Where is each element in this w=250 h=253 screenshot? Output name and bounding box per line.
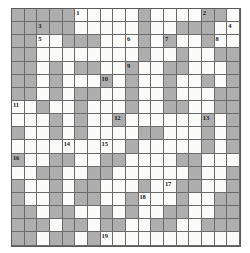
- crossword-cell-open[interactable]: [202, 154, 215, 167]
- crossword-cell-open[interactable]: [101, 48, 114, 61]
- crossword-cell-open[interactable]: [12, 114, 25, 127]
- crossword-cell-open[interactable]: [126, 167, 139, 180]
- crossword-cell-open[interactable]: [113, 127, 126, 140]
- crossword-cell-open[interactable]: [189, 101, 202, 114]
- crossword-cell-open[interactable]: [113, 101, 126, 114]
- crossword-cell-open[interactable]: [88, 219, 101, 232]
- crossword-cell-open[interactable]: [63, 62, 76, 75]
- crossword-cell-open[interactable]: [151, 22, 164, 35]
- crossword-cell-open[interactable]: [164, 22, 177, 35]
- crossword-cell-open[interactable]: [189, 48, 202, 61]
- crossword-cell-open[interactable]: [101, 35, 114, 48]
- crossword-cell-open[interactable]: 11: [12, 101, 25, 114]
- crossword-cell-open[interactable]: [37, 62, 50, 75]
- crossword-cell-open[interactable]: [37, 114, 50, 127]
- crossword-cell-open[interactable]: [151, 9, 164, 22]
- crossword-cell-open[interactable]: [88, 140, 101, 153]
- crossword-cell-open[interactable]: 19: [101, 232, 114, 245]
- crossword-cell-open[interactable]: [202, 167, 215, 180]
- crossword-cell-open[interactable]: [63, 127, 76, 140]
- crossword-cell-open[interactable]: [113, 232, 126, 245]
- crossword-cell-open[interactable]: [63, 101, 76, 114]
- crossword-cell-open[interactable]: [164, 232, 177, 245]
- crossword-cell-open[interactable]: [113, 193, 126, 206]
- crossword-cell-open[interactable]: [215, 167, 228, 180]
- crossword-cell-open[interactable]: [63, 167, 76, 180]
- crossword-cell-open[interactable]: 14: [63, 140, 76, 153]
- crossword-cell-open[interactable]: [126, 232, 139, 245]
- crossword-cell-open[interactable]: [37, 193, 50, 206]
- crossword-cell-open[interactable]: [139, 154, 152, 167]
- crossword-cell-open[interactable]: [139, 62, 152, 75]
- crossword-cell-open[interactable]: [25, 127, 38, 140]
- crossword-cell-open[interactable]: [139, 88, 152, 101]
- crossword-cell-open[interactable]: [113, 9, 126, 22]
- crossword-cell-open[interactable]: [25, 154, 38, 167]
- crossword-cell-open[interactable]: [37, 75, 50, 88]
- crossword-cell-open[interactable]: [189, 127, 202, 140]
- crossword-cell-open[interactable]: [164, 48, 177, 61]
- crossword-cell-open[interactable]: [113, 75, 126, 88]
- crossword-cell-open[interactable]: [202, 232, 215, 245]
- crossword-cell-open[interactable]: [101, 9, 114, 22]
- crossword-cell-open[interactable]: [164, 193, 177, 206]
- crossword-cell-open[interactable]: [189, 75, 202, 88]
- crossword-cell-open[interactable]: 5: [37, 35, 50, 48]
- crossword-cell-open[interactable]: [151, 140, 164, 153]
- crossword-cell-open[interactable]: [113, 206, 126, 219]
- crossword-cell-open[interactable]: [126, 22, 139, 35]
- crossword-cell-open[interactable]: [126, 9, 139, 22]
- crossword-cell-open[interactable]: [126, 180, 139, 193]
- crossword-cell-open[interactable]: [227, 232, 240, 245]
- crossword-cell-open[interactable]: [177, 75, 190, 88]
- crossword-cell-open[interactable]: [126, 114, 139, 127]
- crossword-cell-open[interactable]: [227, 35, 240, 48]
- crossword-cell-open[interactable]: [113, 88, 126, 101]
- crossword-cell-open[interactable]: [177, 88, 190, 101]
- crossword-cell-open[interactable]: [151, 88, 164, 101]
- crossword-cell-open[interactable]: [75, 75, 88, 88]
- crossword-cell-open[interactable]: [63, 48, 76, 61]
- crossword-cell-open[interactable]: [25, 167, 38, 180]
- crossword-cell-open[interactable]: [113, 48, 126, 61]
- crossword-cell-open[interactable]: [189, 35, 202, 48]
- crossword-cell-open[interactable]: [88, 154, 101, 167]
- crossword-cell-open[interactable]: [151, 101, 164, 114]
- crossword-cell-open[interactable]: 4: [227, 22, 240, 35]
- crossword-cell-open[interactable]: [63, 88, 76, 101]
- crossword-cell-open[interactable]: [101, 180, 114, 193]
- crossword-cell-open[interactable]: [189, 114, 202, 127]
- crossword-cell-open[interactable]: [139, 75, 152, 88]
- crossword-cell-open[interactable]: [189, 140, 202, 153]
- crossword-cell-open[interactable]: [75, 22, 88, 35]
- crossword-cell-open[interactable]: [151, 114, 164, 127]
- crossword-cell-open[interactable]: [37, 154, 50, 167]
- crossword-cell-open[interactable]: [151, 35, 164, 48]
- crossword-cell-open[interactable]: [50, 219, 63, 232]
- crossword-cell-open[interactable]: [177, 219, 190, 232]
- crossword-cell-open[interactable]: [63, 114, 76, 127]
- crossword-cell-open[interactable]: [151, 193, 164, 206]
- crossword-cell-open[interactable]: [139, 232, 152, 245]
- crossword-cell-open[interactable]: [126, 127, 139, 140]
- crossword-cell-open[interactable]: [202, 206, 215, 219]
- crossword-cell-open[interactable]: [126, 154, 139, 167]
- crossword-cell-open[interactable]: 8: [215, 35, 228, 48]
- crossword-cell-open[interactable]: [88, 75, 101, 88]
- crossword-cell-open[interactable]: [177, 232, 190, 245]
- crossword-cell-open[interactable]: [164, 154, 177, 167]
- crossword-cell-open[interactable]: [75, 48, 88, 61]
- crossword-cell-open[interactable]: [25, 180, 38, 193]
- crossword-cell-open[interactable]: [164, 140, 177, 153]
- crossword-cell-open[interactable]: [202, 101, 215, 114]
- crossword-cell-open[interactable]: [37, 180, 50, 193]
- crossword-cell-open[interactable]: [50, 140, 63, 153]
- crossword-cell-open[interactable]: [151, 62, 164, 75]
- crossword-cell-open[interactable]: 15: [101, 140, 114, 153]
- crossword-cell-open[interactable]: [151, 232, 164, 245]
- crossword-cell-open[interactable]: [113, 22, 126, 35]
- crossword-cell-open[interactable]: [189, 62, 202, 75]
- crossword-cell-open[interactable]: [177, 140, 190, 153]
- crossword-cell-open[interactable]: [63, 180, 76, 193]
- crossword-cell-open[interactable]: [101, 22, 114, 35]
